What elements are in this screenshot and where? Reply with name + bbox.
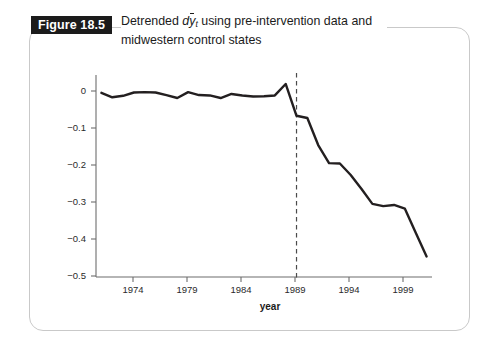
ytick-label-m0_5: −0.5 [52, 271, 86, 281]
caption-suffix: using pre-intervention data and [198, 14, 372, 28]
xtick-label-1979: 1979 [167, 285, 207, 295]
ytick-label-m0_3: −0.3 [52, 197, 86, 207]
figure-label: Figure 18.5 [31, 16, 112, 34]
ytick-label-m0_1: −0.1 [52, 123, 86, 133]
figure-caption: Detrended dyt using pre-intervention dat… [121, 14, 387, 48]
xtick-label-1984: 1984 [221, 285, 261, 295]
xtick-label-1989: 1989 [275, 285, 315, 295]
caption-var-ybar: y [189, 14, 195, 30]
x-axis-title: year [240, 301, 300, 312]
ytick-label-0: 0 [52, 86, 86, 96]
xtick-label-1974: 1974 [113, 285, 153, 295]
xtick-label-1994: 1994 [329, 285, 369, 295]
caption-line2: midwestern control states [121, 33, 261, 47]
xtick-label-1999: 1999 [383, 285, 423, 295]
caption-prefix: Detrended [121, 14, 182, 28]
ytick-label-m0_2: −0.2 [52, 160, 86, 170]
ytick-label-m0_4: −0.4 [52, 234, 86, 244]
